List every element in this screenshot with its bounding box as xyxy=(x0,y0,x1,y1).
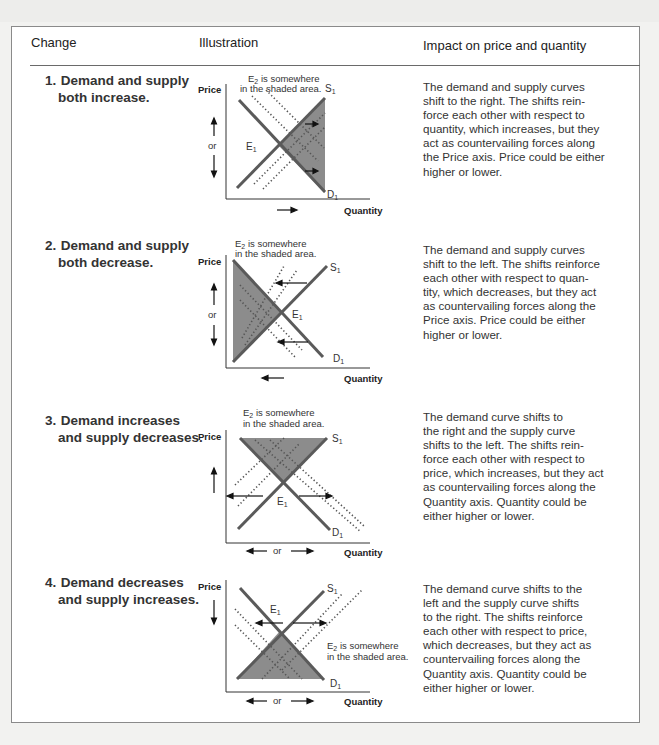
impact-line: shift to the right. The shifts rein- xyxy=(423,94,648,108)
impact-line: higher or lower. xyxy=(423,328,648,342)
e1-label: E1 xyxy=(246,141,257,153)
impact-line: tity, which decreases, but they act xyxy=(423,285,648,299)
price-direction-arrows xyxy=(212,468,217,493)
impact-line: act as countervailing forces along xyxy=(423,136,648,150)
x-axis-label: Quantity xyxy=(344,696,383,707)
page-top-strip xyxy=(0,0,659,22)
impact-line: the Price axis. Price could be either xyxy=(423,150,648,164)
impact-line: as countervailing forces along the xyxy=(423,480,648,494)
impact-line: each other with respect to price, xyxy=(423,624,648,638)
impact-line: either higher or lower. xyxy=(423,681,648,695)
or-label: or xyxy=(273,545,281,556)
impact-line: left and the supply curve shifts xyxy=(423,596,648,610)
shaded-region xyxy=(237,631,324,679)
change-line-1: Demand increases xyxy=(61,413,180,428)
annotation-line-2: in the shaded area. xyxy=(327,651,408,662)
y-axis-label: Price xyxy=(198,431,221,442)
d1-label: D1 xyxy=(330,678,341,690)
annotation-line-2: in the shaded area. xyxy=(235,248,316,259)
row-4-impact: The demand curve shifts to the left and … xyxy=(423,582,648,695)
row-2-impact: The demand and supply curves shift to th… xyxy=(423,243,648,342)
or-label: or xyxy=(208,140,216,151)
impact-line: Price axis. Price could be either xyxy=(423,313,648,327)
d1-label: D1 xyxy=(333,353,344,365)
d1-label: D1 xyxy=(332,527,343,539)
impact-line: The demand and supply curves xyxy=(423,243,648,257)
impact-line: shifts to the left. The shifts rein- xyxy=(423,438,648,452)
quantity-direction-arrow xyxy=(262,376,284,381)
change-line-1: Demand and supply xyxy=(61,238,189,253)
row-2-illustration: E2 is somewhere in the shaded area. Pric… xyxy=(195,230,370,390)
row-1-illustration: E2 is somewhere in the shaded area. Pric… xyxy=(195,70,370,220)
impact-line: quantity, which increases, but they xyxy=(423,122,648,136)
header-change: Change xyxy=(31,35,77,50)
y-axis-label: Price xyxy=(198,256,221,267)
header-illustration: Illustration xyxy=(199,35,258,50)
impact-line: force each other with respect to xyxy=(423,452,648,466)
x-axis-label: Quantity xyxy=(344,547,383,558)
x-axis-label: Quantity xyxy=(344,205,383,216)
impact-line: each other with respect to quan- xyxy=(423,271,648,285)
row-number: 4. xyxy=(45,574,57,591)
or-label: or xyxy=(273,695,281,706)
annotation-line-2: in the shaded area. xyxy=(240,83,321,94)
impact-line: The demand curve shifts to the xyxy=(423,582,648,596)
row-3-impact: The demand curve shifts to the right and… xyxy=(423,410,648,523)
change-line-1: Demand decreases xyxy=(61,575,184,590)
impact-line: price, which increases, but they act xyxy=(423,466,648,480)
row-number: 3. xyxy=(45,412,57,429)
impact-line: the right and the supply curve xyxy=(423,424,648,438)
y-axis-label: Price xyxy=(198,84,221,95)
e1-label: E1 xyxy=(292,309,303,321)
row-3-change: 3. Demand increases and supply decreases… xyxy=(45,412,215,446)
change-line-2: and supply decreases. xyxy=(45,429,215,446)
row-1-impact: The demand and supply curves shift to th… xyxy=(423,80,648,179)
impact-line: as countervailing forces along the xyxy=(423,299,648,313)
impact-line: either higher or lower. xyxy=(423,509,648,523)
impact-line: which decreases, but they act as xyxy=(423,638,648,652)
impact-line: countervailing forces along the xyxy=(423,652,648,666)
impact-line: shift to the left. The shifts reinforce xyxy=(423,257,648,271)
annotation-line-2: in the shaded area. xyxy=(243,418,324,429)
impact-line: The demand and supply curves xyxy=(423,80,648,94)
y-axis-label: Price xyxy=(198,581,221,592)
or-label: or xyxy=(208,309,216,320)
row-4-change: 4. Demand decreases and supply increases… xyxy=(45,574,215,608)
d1-label: D1 xyxy=(327,189,338,201)
row-number: 1. xyxy=(45,72,57,89)
impact-line: force each other with respect to xyxy=(423,108,648,122)
change-line-1: Demand and supply xyxy=(61,73,189,88)
x-axis-label: Quantity xyxy=(344,373,383,384)
row-2-change: 2. Demand and supply both decrease. xyxy=(45,237,215,271)
header-divider xyxy=(30,65,640,66)
quantity-direction-arrow xyxy=(277,208,297,213)
impact-line: Quantity axis. Quantity could be xyxy=(423,667,648,681)
s1-label: S1 xyxy=(332,433,343,445)
change-line-2: both increase. xyxy=(45,89,215,106)
e1-label: E1 xyxy=(270,604,281,616)
row-number: 2. xyxy=(45,237,57,254)
impact-line: to the right. The shifts reinforce xyxy=(423,610,648,624)
s1-label: S1 xyxy=(330,262,341,274)
change-line-2: both decrease. xyxy=(45,254,215,271)
impact-line: The demand curve shifts to xyxy=(423,410,648,424)
s1-label: S1 xyxy=(327,583,338,595)
row-4-illustration: Price Quantity or E1 S1 D1 E2 is somewhe… xyxy=(195,570,435,730)
price-direction-arrows xyxy=(212,600,217,624)
e1-label: E1 xyxy=(277,496,288,508)
impact-line: higher or lower. xyxy=(423,165,648,179)
impact-line: Quantity axis. Quantity could be xyxy=(423,495,648,509)
s1-label: S1 xyxy=(325,83,336,95)
row-3-illustration: E2 is somewhere in the shaded area. Pric… xyxy=(195,400,370,560)
row-1-change: 1. Demand and supply both increase. xyxy=(45,72,215,106)
change-line-2: and supply increases. xyxy=(45,591,215,608)
header-impact: Impact on price and quantity xyxy=(423,38,586,53)
